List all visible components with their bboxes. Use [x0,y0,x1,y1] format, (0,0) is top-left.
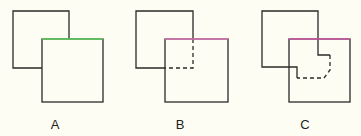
panel-a [13,11,103,102]
panel-b-label: B [176,117,185,132]
panel-c-hidden-edge [297,55,330,78]
panel-b-front-square [165,39,228,102]
panel-a-front-square [42,39,103,102]
panel-c-notch-solid-top [318,39,330,55]
overlapping-squares-diagram: A B C [0,0,361,136]
panel-b-hidden-edge [165,39,193,68]
panel-c-label: C [300,117,309,132]
panel-a-label: A [51,117,60,132]
panel-b [136,11,228,102]
panel-c-front-square [289,39,350,102]
panel-c-notch-solid-left [289,67,297,78]
panel-c [262,11,350,102]
